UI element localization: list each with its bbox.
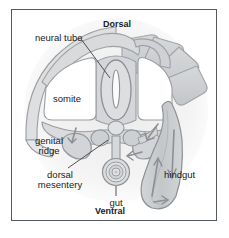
notochord xyxy=(108,121,124,135)
figure-frame: Dorsal neural tube somite genital ridge … xyxy=(11,9,217,221)
coelom-lobe-left xyxy=(91,130,109,146)
neural-tube-lumen xyxy=(112,70,119,108)
neural-tube-label: neural tube xyxy=(35,33,83,44)
figure-root: Dorsal neural tube somite genital ridge … xyxy=(0,0,229,238)
dorsal-mesentery-label-line2: mesentery xyxy=(24,180,96,191)
dorsal-orientation-label: Dorsal xyxy=(92,19,142,30)
gut xyxy=(103,159,130,186)
ventral-orientation-label: Ventral xyxy=(84,206,136,217)
hindgut-label: hindgut xyxy=(164,170,195,181)
genital-ridge-label-line2: ridge xyxy=(24,146,74,157)
somite-label: somite xyxy=(53,94,81,105)
